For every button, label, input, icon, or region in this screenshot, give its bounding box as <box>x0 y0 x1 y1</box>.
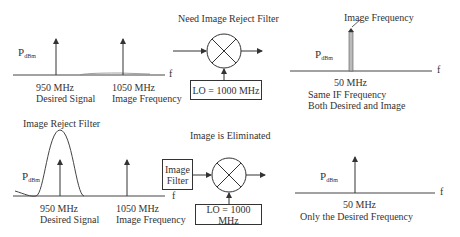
bottom-right-freq: 50 MHz <box>343 199 376 210</box>
top-mixer-title: Need Image Reject Filter <box>178 13 279 24</box>
bottom-left-signal-2-desc: Image Frequency <box>116 214 186 225</box>
top-left-y-axis-label: PdBm <box>18 46 36 59</box>
bottom-left-filter-label: Image Reject Filter <box>23 118 100 129</box>
top-right-desc-2: Both Desired and Image <box>308 100 405 111</box>
top-left-signal-2-freq: 1050 MHz <box>112 82 155 93</box>
top-left-x-axis-label: f <box>169 68 172 79</box>
top-left-signal-1-desc: Desired Signal <box>36 93 95 104</box>
top-right-desc-1: Same IF Frequency <box>308 89 386 100</box>
top-right-annotation: Image Frequency <box>344 12 414 23</box>
top-lo-box: LO = 1000 MHz <box>190 80 262 100</box>
top-left-signal-1-freq: 950 MHz <box>36 82 74 93</box>
image-filter-line-2: Filter <box>167 175 189 186</box>
bottom-right-desc: Only the Desired Frequency <box>300 211 413 222</box>
bottom-right-x-axis-label: f <box>440 186 443 197</box>
top-mixer-block <box>173 34 262 80</box>
bottom-left-signal-2-freq: 1050 MHz <box>116 203 159 214</box>
bottom-left-y-axis-label: PdBm <box>22 170 40 183</box>
bottom-mixer-block <box>193 158 265 204</box>
image-filter-box: Image Filter <box>162 159 193 190</box>
bottom-right-y-axis-label: PdBm <box>320 170 338 183</box>
top-right-spectrum-plot <box>290 19 432 71</box>
top-left-signal-2-desc: Image Frequency <box>112 93 182 104</box>
top-right-y-axis-label: PdBm <box>315 48 333 61</box>
top-right-x-axis-label: f <box>437 64 440 75</box>
filter-response-curve <box>15 130 84 196</box>
image-filter-line-1: Image <box>165 164 190 175</box>
bottom-left-signal-1-desc: Desired Signal <box>40 214 99 225</box>
bottom-lo-box: LO = 1000 MHz <box>195 204 262 225</box>
bottom-right-spectrum-plot <box>295 157 435 193</box>
bottom-mixer-title: Image is Eliminated <box>190 130 271 141</box>
bottom-left-signal-1-freq: 950 MHz <box>40 203 78 214</box>
bottom-left-spectrum-plot <box>13 130 165 196</box>
bottom-left-x-axis-label: f <box>172 190 175 201</box>
top-right-freq: 50 MHz <box>334 77 367 88</box>
